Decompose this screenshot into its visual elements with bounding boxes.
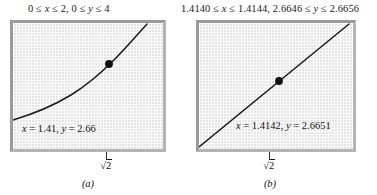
panel-a-curve [13, 24, 147, 120]
sqrt-icon: √2 [263, 159, 275, 171]
panel-b-tick-label: √2 [253, 159, 285, 171]
panel-a-readout: x = 1.41, y = 2.66 [22, 123, 96, 134]
panel-a-tick-radicand: 2 [106, 159, 112, 171]
panel-b-plot-screen: x = 1.4142, y = 2.6651 [196, 20, 356, 152]
panel-a-plot-screen: x = 1.41, y = 2.66 [10, 20, 166, 152]
panel-a-range-caption: 0 ≤ x ≤ 2, 0 ≤ y ≤ 4 [28, 3, 110, 14]
panel-b-tick-radicand: 2 [269, 159, 275, 171]
sqrt-icon: √2 [100, 159, 112, 171]
panel-a-subfigure-label: (a) [72, 178, 104, 189]
figure-container: 0 ≤ x ≤ 2, 0 ≤ y ≤ 4 x = 1.41, y = 2.66 … [0, 0, 377, 195]
panel-a-point-marker [105, 60, 113, 68]
panel-b-subfigure-label: (b) [254, 178, 286, 189]
panel-b: 1.4140 ≤ x ≤ 1.4144, 2.6646 ≤ y ≤ 2.6656… [180, 0, 377, 195]
panel-a-tick-label: √2 [90, 159, 122, 171]
panel-b-range-caption: 1.4140 ≤ x ≤ 1.4144, 2.6646 ≤ y ≤ 2.6656 [181, 3, 359, 14]
panel-b-readout: x = 1.4142, y = 2.6651 [236, 120, 331, 131]
panel-b-x-tick [269, 152, 270, 159]
panel-b-point-marker [275, 77, 283, 85]
panel-a-x-tick [106, 152, 107, 159]
panel-a: 0 ≤ x ≤ 2, 0 ≤ y ≤ 4 x = 1.41, y = 2.66 … [0, 0, 180, 195]
